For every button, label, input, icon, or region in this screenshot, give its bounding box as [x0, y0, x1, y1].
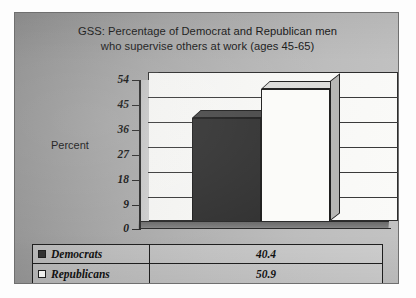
- legend-label-republicans: Republicans: [51, 268, 110, 280]
- tick-label-0: 0: [93, 223, 129, 234]
- legend-value-democrats: 40.4: [150, 245, 382, 263]
- legend-data-table: Democrats 40.4 Republicans 50.9: [32, 244, 383, 284]
- tick-label-27: 27: [93, 149, 129, 160]
- bar-democrats-top-face: [192, 110, 270, 118]
- bar-democrats-front-face: [192, 118, 261, 229]
- chart-figure: GSS: Percentage of Democrat and Republic…: [14, 12, 399, 284]
- tick-label-9: 9: [93, 199, 129, 210]
- tick-label-36: 36: [93, 124, 129, 135]
- tick-label-18: 18: [93, 174, 129, 185]
- tick-label-54: 54: [93, 74, 129, 85]
- bar-republicans-top-face: [261, 81, 339, 89]
- legend-label-democrats: Democrats: [51, 248, 102, 260]
- bar-democrats: [192, 118, 261, 229]
- tick-label-45: 45: [93, 99, 129, 110]
- legend-swatch-democrats-icon: [38, 250, 46, 258]
- plot-floor-front-edge: [139, 228, 391, 229]
- bar-republicans-side-face: [330, 73, 340, 221]
- bar-republicans: [261, 89, 330, 229]
- legend-swatch-republicans-icon: [38, 270, 46, 278]
- legend-row-republicans: Republicans 50.9: [33, 264, 382, 283]
- legend-row-democrats: Democrats 40.4: [33, 245, 382, 264]
- tick-mark-0: [132, 229, 140, 230]
- legend-key-republicans: Republicans: [33, 264, 150, 283]
- legend-value-republicans: 50.9: [150, 264, 382, 283]
- bar-republicans-front-face: [261, 89, 330, 229]
- scanned-page: GSS: Percentage of Democrat and Republic…: [0, 0, 416, 298]
- legend-key-democrats: Democrats: [33, 245, 150, 263]
